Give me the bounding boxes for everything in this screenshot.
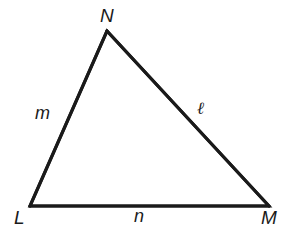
geometry-figure-triangle: N L M m ℓ n	[0, 0, 284, 236]
side-label-n: n	[134, 207, 144, 225]
triangle-outline-path	[30, 31, 269, 206]
vertex-label-n: N	[100, 6, 114, 25]
vertex-label-m: M	[261, 208, 277, 227]
side-label-ell: ℓ	[197, 100, 204, 117]
triangle-side-nm	[107, 31, 269, 206]
side-label-m: m	[35, 104, 50, 122]
vertex-label-l: L	[14, 208, 25, 227]
